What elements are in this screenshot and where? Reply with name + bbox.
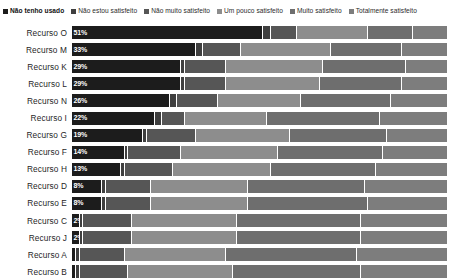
category-label: Recurso G (0, 130, 72, 140)
bar-segment[interactable] (387, 129, 447, 142)
bar-row: Recurso L29% (0, 75, 461, 92)
bar-segment[interactable]: 29% (72, 77, 181, 90)
bar-segment[interactable]: 19% (72, 129, 143, 142)
bar-segment[interactable] (177, 94, 218, 107)
bar-row: Recurso F14% (0, 144, 461, 161)
bar-segment[interactable]: 22% (72, 112, 155, 125)
bar-segment[interactable]: 26% (72, 94, 170, 107)
bar-row: Recurso J2% (0, 229, 461, 246)
bar-segment[interactable] (83, 214, 132, 227)
bar-segment[interactable] (241, 43, 331, 56)
bar-segment[interactable] (237, 214, 361, 227)
bar-segment[interactable] (376, 163, 447, 176)
bar-segment[interactable] (80, 248, 125, 261)
bar-segment[interactable] (383, 146, 447, 159)
bar-segment[interactable] (248, 180, 364, 193)
bar-segment[interactable] (380, 112, 448, 125)
bar-segment[interactable] (368, 197, 447, 210)
bar-segment[interactable] (406, 60, 447, 73)
bar-segment[interactable] (361, 265, 447, 278)
bar-segment[interactable] (106, 197, 151, 210)
bar-segment[interactable] (233, 265, 361, 278)
bar-segment[interactable] (125, 248, 226, 261)
bar-segment[interactable] (297, 26, 368, 39)
bar-segment[interactable] (413, 26, 447, 39)
bar-segment[interactable] (181, 146, 279, 159)
bar-segment[interactable]: 8% (72, 197, 102, 210)
legend-swatch-icon (3, 9, 8, 14)
bar-segment[interactable] (80, 265, 129, 278)
bar-segment[interactable] (263, 26, 271, 39)
bar-segment[interactable] (391, 94, 447, 107)
bar-segment[interactable] (226, 60, 324, 73)
bar-segment[interactable]: 13% (72, 163, 121, 176)
bar-segment[interactable] (147, 129, 196, 142)
bar-segment[interactable] (368, 26, 413, 39)
bar-row: Recurso K29% (0, 58, 461, 75)
bar-segment[interactable] (83, 231, 132, 244)
bar-segment[interactable] (185, 77, 226, 90)
bar-segment[interactable] (151, 180, 249, 193)
bar-segment[interactable] (106, 180, 151, 193)
bar-segment[interactable] (162, 112, 185, 125)
bar-segment[interactable] (196, 129, 290, 142)
legend-item[interactable]: Não muito satisfeito (144, 7, 210, 15)
bar-segment[interactable] (357, 248, 447, 261)
bar-row: Recurso H13% (0, 161, 461, 178)
bar-segment[interactable] (185, 112, 268, 125)
bar-track: 14% (72, 146, 447, 159)
bar-segment[interactable] (125, 163, 174, 176)
category-label: Recurso B (0, 267, 72, 277)
category-label: Recurso J (0, 233, 72, 243)
legend-swatch-icon (349, 9, 354, 14)
bar-segment[interactable] (271, 26, 297, 39)
bar-segment[interactable] (402, 77, 447, 90)
bar-segment[interactable] (128, 265, 233, 278)
bar-value-label: 19% (74, 131, 88, 139)
bar-segment[interactable] (237, 231, 361, 244)
bar-segment[interactable] (361, 231, 447, 244)
bar-segment[interactable] (170, 94, 178, 107)
bar-segment[interactable] (128, 146, 181, 159)
bar-segment[interactable]: 51% (72, 26, 263, 39)
bar-segment[interactable] (361, 214, 447, 227)
legend-item[interactable]: Não tenho usado (3, 7, 64, 15)
bar-segment[interactable] (203, 43, 241, 56)
bar-segment[interactable] (151, 197, 249, 210)
bar-segment[interactable] (132, 214, 237, 227)
bar-segment[interactable] (402, 43, 447, 56)
bar-segment[interactable] (226, 248, 357, 261)
bar-row: Recurso O51% (0, 24, 461, 41)
bar-segment[interactable]: 2% (72, 214, 80, 227)
bar-segment[interactable] (365, 180, 448, 193)
bar-segment[interactable] (185, 60, 226, 73)
bar-segment[interactable]: 2% (72, 231, 80, 244)
legend-item[interactable]: Não estou satisfeito (71, 7, 137, 15)
bar-segment[interactable] (218, 94, 301, 107)
bar-segment[interactable] (331, 43, 402, 56)
bar-segment[interactable]: 33% (72, 43, 196, 56)
legend-item[interactable]: Muito satisfeito (290, 7, 342, 15)
bar-segment[interactable]: 8% (72, 180, 102, 193)
bar-segment[interactable] (267, 112, 380, 125)
bar-row: Recurso E8% (0, 195, 461, 212)
bar-segment[interactable] (320, 77, 403, 90)
legend-item-label: Totalmente satisfeito (356, 7, 417, 15)
legend-item-label: Um pouco satisfeito (224, 7, 283, 15)
bar-segment[interactable] (278, 146, 383, 159)
legend-item[interactable]: Totalmente satisfeito (349, 7, 417, 15)
bar-segment[interactable] (196, 43, 204, 56)
bar-segment[interactable]: 29% (72, 60, 181, 73)
bar-segment[interactable] (155, 112, 163, 125)
legend-item[interactable]: Um pouco satisfeito (217, 7, 283, 15)
bar-segment[interactable] (226, 77, 320, 90)
bar-segment[interactable] (248, 197, 368, 210)
bar-segment[interactable]: 14% (72, 146, 125, 159)
bar-segment[interactable] (271, 163, 376, 176)
bar-segment[interactable] (290, 129, 388, 142)
bar-segment[interactable] (323, 60, 406, 73)
bar-segment[interactable] (173, 163, 271, 176)
bar-segment[interactable] (132, 231, 237, 244)
bar-segment[interactable] (301, 94, 391, 107)
